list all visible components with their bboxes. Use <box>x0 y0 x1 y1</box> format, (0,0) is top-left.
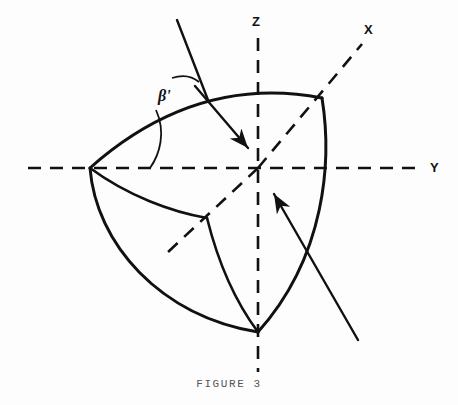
octant-arc-top <box>90 93 322 168</box>
figure-3-diagram: Z Y X β' FIGURE 3 <box>0 0 458 405</box>
octant-arc-interior-lower <box>207 218 258 332</box>
axis-x-line <box>258 44 362 168</box>
incident-ray-lower <box>274 194 358 340</box>
beta-reference-line <box>177 20 208 100</box>
axis-label-y: Y <box>430 160 439 175</box>
diagram-canvas <box>0 0 458 405</box>
octant-arc-right <box>258 98 326 332</box>
beta-prime-label: β' <box>158 87 171 105</box>
axis-label-z: Z <box>252 14 260 29</box>
beta-prime-arc <box>150 110 161 168</box>
beta-prime-tick-arc <box>172 76 199 82</box>
octant-arc-lower-left <box>90 168 258 332</box>
octant-arc-interior-upper <box>90 168 207 218</box>
figure-caption: FIGURE 3 <box>0 378 458 390</box>
axis-label-x: X <box>364 22 373 37</box>
